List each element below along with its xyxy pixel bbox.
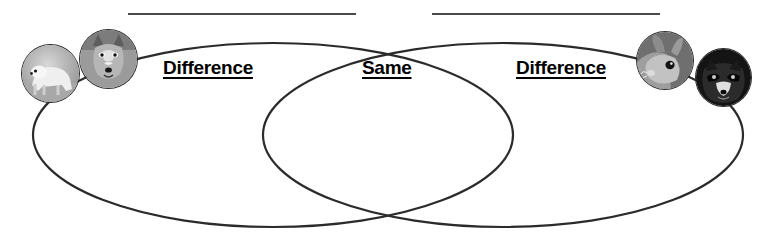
- label-same: Same: [362, 57, 412, 79]
- rabbit-photo: [637, 32, 693, 89]
- left-topic-write-line[interactable]: [128, 13, 356, 15]
- right-topic-write-line[interactable]: [432, 13, 660, 15]
- label-difference-right: Difference: [516, 57, 606, 79]
- raccoon-photo: [696, 49, 751, 106]
- venn-diagram-worksheet: Difference Same Difference: [0, 0, 767, 245]
- polar-bear-photo: [22, 45, 79, 102]
- label-difference-left: Difference: [163, 57, 253, 79]
- wolf-photo: [80, 30, 137, 88]
